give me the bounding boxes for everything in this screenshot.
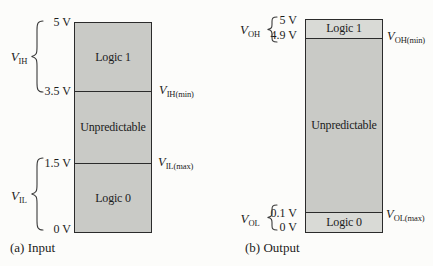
logic-voltage-levels-figure: Logic 1 Unpredictable Logic 0 5 V 3.5 V … (0, 0, 433, 266)
output-voltage-box: Logic 1 Unpredictable Logic 0 (305, 19, 383, 233)
input-region-logic1: Logic 1 (75, 23, 151, 92)
output-region-unpredictable: Unpredictable (306, 39, 382, 213)
input-unpredictable-label: Unpredictable (80, 120, 145, 135)
output-region-logic1: Logic 1 (306, 20, 382, 39)
vil-brace-icon (30, 157, 44, 231)
vol-max-label: VOL(max) (386, 207, 425, 225)
output-logic0-label: Logic 0 (326, 215, 362, 230)
vih-brace-icon (30, 20, 44, 93)
vol-brace-icon (266, 204, 278, 231)
input-region-unpredictable: Unpredictable (75, 92, 151, 164)
vih-symbol: VIH (6, 49, 32, 69)
voh-brace-icon (266, 16, 278, 43)
output-unpredictable-label: Unpredictable (311, 118, 376, 133)
output-region-logic0: Logic 0 (306, 213, 382, 233)
vih-min-label: VIH(min) (159, 83, 194, 101)
vol-symbol: VOL (236, 211, 264, 231)
input-voltage-box: Logic 1 Unpredictable Logic 0 (74, 22, 152, 233)
input-logic0-label: Logic 0 (95, 191, 131, 206)
caption-output: (b) Output (245, 240, 300, 255)
output-logic1-label: Logic 1 (326, 21, 362, 36)
caption-input: (a) Input (10, 240, 55, 255)
input-logic1-label: Logic 1 (95, 50, 131, 65)
voh-min-label: VOH(min) (387, 29, 425, 47)
vil-symbol: VIL (6, 188, 32, 208)
vil-max-label: VIL(max) (158, 155, 193, 173)
input-region-logic0: Logic 0 (75, 164, 151, 232)
voh-symbol: VOH (236, 22, 264, 42)
